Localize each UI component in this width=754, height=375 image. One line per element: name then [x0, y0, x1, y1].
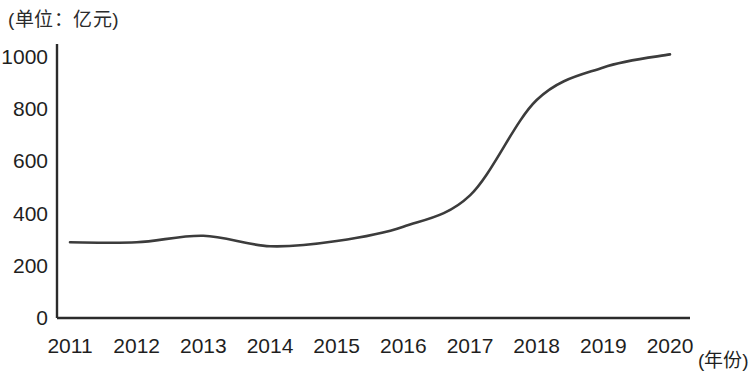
- x-tick-label: 2015: [313, 334, 360, 358]
- x-axis-title: (年份): [698, 345, 749, 372]
- x-tick-label: 2011: [47, 334, 92, 358]
- x-tick-label: 2017: [447, 334, 494, 358]
- y-tick-label: 600: [0, 149, 48, 173]
- y-tick-label: 200: [0, 254, 48, 278]
- line-chart: (单位：亿元) 02004006008001000 20112012201320…: [0, 0, 754, 375]
- axis-lines: [57, 44, 690, 318]
- chart-plot-area: [0, 0, 754, 375]
- x-tick-label: 2020: [647, 334, 694, 358]
- x-tick-label: 2018: [513, 334, 560, 358]
- y-tick-label: 1000: [0, 45, 48, 69]
- x-tick-label: 2019: [580, 334, 627, 358]
- x-tick-label: 2012: [113, 334, 160, 358]
- x-tick-label: 2013: [180, 334, 227, 358]
- y-tick-label: 800: [0, 97, 48, 121]
- data-line-series: [70, 54, 670, 246]
- y-tick-label: 0: [0, 306, 48, 330]
- x-tick-label: 2016: [380, 334, 427, 358]
- x-tick-label: 2014: [247, 334, 294, 358]
- y-tick-label: 400: [0, 202, 48, 226]
